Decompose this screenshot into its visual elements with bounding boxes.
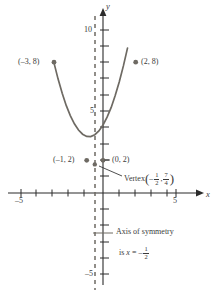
y-axis: [100, 8, 109, 285]
vertex-marker: [93, 162, 97, 166]
symmetry-sign: –: [138, 249, 142, 257]
symmetry-is-word: is: [119, 249, 124, 257]
vertex-word: Vertex: [124, 175, 145, 183]
vertex-x-sign: –: [149, 175, 153, 183]
vertex-y-denominator: 4: [163, 180, 168, 187]
y-tick-label-neg5: –5: [85, 270, 93, 278]
vertex-x-fraction: 1 2: [154, 172, 159, 187]
point-marker: [52, 60, 57, 65]
point-label-neg3-8: (–3, 8): [18, 58, 39, 66]
parabola-curve: [54, 48, 128, 137]
y-tick-label-10: 10: [84, 26, 92, 34]
point-label-2-8: (2, 8): [141, 58, 158, 66]
point-marker: [84, 158, 89, 163]
parabola-plot: [0, 0, 219, 295]
x-tick-label-5: 5: [173, 197, 177, 205]
vertex-y-fraction: 7 4: [163, 172, 168, 187]
y-axis-label: y: [106, 2, 110, 11]
x-tick-label-neg5: –5: [15, 197, 23, 205]
point-label-0-2: (0, 2): [112, 156, 129, 164]
symmetry-equals: =: [132, 249, 137, 257]
symmetry-fraction: 1 2: [143, 246, 148, 261]
vertex-comma: ,: [160, 175, 162, 183]
axis-of-symmetry-caption: Axis of symmetry: [116, 228, 174, 236]
vertex-x-denominator: 2: [154, 180, 159, 187]
vertex-annotation: Vertex ( – 1 2 , 7 4 ): [124, 172, 174, 187]
x-axis-label: x: [206, 190, 210, 199]
symmetry-denominator: 2: [143, 254, 148, 261]
figure-canvas: x y –5 5 10 5 –5 (–3, 8) (2, 8) (–1, 2) …: [0, 0, 219, 295]
axis-of-symmetry-equation: is x = – 1 2: [119, 246, 150, 261]
point-label-neg1-2: (–1, 2): [53, 156, 74, 164]
y-tick-label-5: 5: [90, 107, 94, 115]
symmetry-variable: x: [126, 249, 130, 257]
point-marker: [133, 60, 138, 65]
